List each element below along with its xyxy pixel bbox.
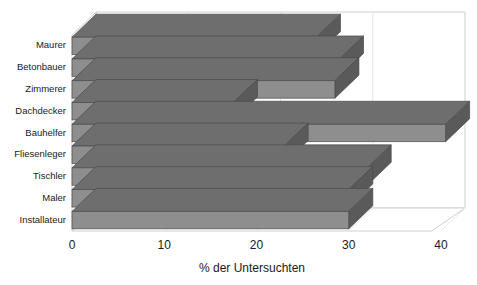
y-axis-category-label: Zimmerer <box>25 83 66 94</box>
y-axis-category-label: Dachdecker <box>15 105 66 116</box>
y-axis-category-label: Tischler <box>33 170 66 181</box>
bar-top-face <box>72 145 391 168</box>
x-axis-tick-label: 20 <box>250 238 264 252</box>
bar-top-face <box>72 80 257 103</box>
x-axis-tick-label: 30 <box>342 238 356 252</box>
x-axis-tick-label: 0 <box>69 238 76 252</box>
x-axis-tick-labels: 010203040 <box>69 238 448 252</box>
x-axis-title: % der Untersuchten <box>199 261 305 275</box>
bar-top-face <box>72 188 373 211</box>
bar-top-face <box>72 36 364 59</box>
chart-canvas: MaurerBetonbauerZimmererDachdeckerBauhel… <box>0 0 477 285</box>
y-axis-category-label: Fliesenleger <box>14 148 66 159</box>
bar-top-face <box>72 167 373 190</box>
y-axis-category-label: Betonbauer <box>17 61 66 72</box>
bar-top-face <box>72 14 340 37</box>
y-axis-category-label: Bauhelfer <box>25 127 66 138</box>
bar-chart-figure: MaurerBetonbauerZimmererDachdeckerBauhel… <box>0 0 477 285</box>
y-axis-category-label: Maurer <box>36 39 66 50</box>
bar-top-face <box>72 123 308 146</box>
x-axis-tick-label: 10 <box>158 238 172 252</box>
bar-top-face <box>72 101 470 124</box>
x-axis-tick-label: 40 <box>434 238 448 252</box>
bar-front-face <box>72 211 349 228</box>
y-axis-category-label: Maler <box>42 192 66 203</box>
bar-top-face <box>72 58 359 81</box>
y-axis-category-label: Installateur <box>20 214 66 225</box>
y-axis-labels: MaurerBetonbauerZimmererDachdeckerBauhel… <box>14 39 66 224</box>
bar <box>72 188 373 228</box>
